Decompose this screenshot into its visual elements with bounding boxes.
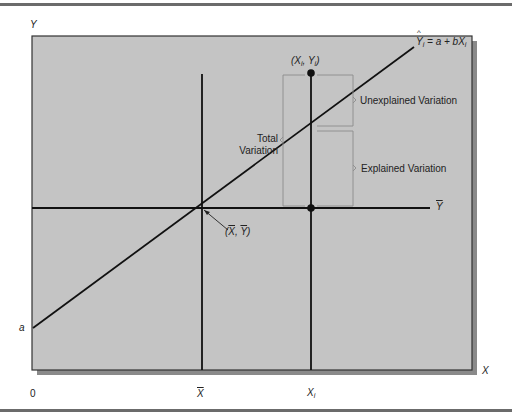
xi-ybar-point (307, 204, 315, 212)
xi-tick-label: Xi (307, 388, 315, 399)
total-variation-label: Total Variation (236, 133, 278, 157)
explained-variation-label: Explained Variation (361, 164, 446, 174)
unexplained-variation-label: Unexplained Variation (360, 96, 457, 106)
origin-label: 0 (30, 389, 36, 399)
xbar-tick-label: X (197, 389, 204, 399)
y-axis-label: Y (30, 20, 37, 30)
ybar-label: Y (436, 202, 443, 212)
regression-equation: ^Yi = a + bXi (416, 37, 466, 48)
intercept-label: a (19, 323, 25, 333)
x-axis-label: X (482, 366, 489, 376)
point-label: (Xi, Yi) (291, 56, 320, 67)
mean-point-label: (X, Y) (225, 227, 250, 237)
observed-point (307, 69, 315, 77)
plot-panel (32, 36, 472, 370)
